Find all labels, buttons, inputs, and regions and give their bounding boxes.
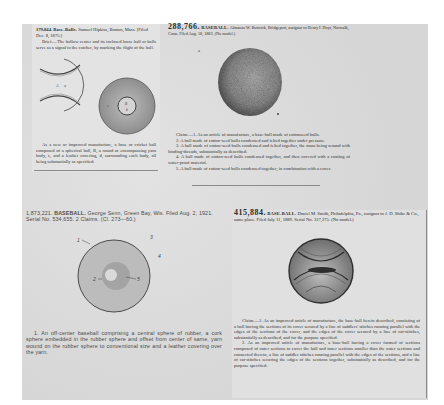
clipping-bottom-rule	[34, 170, 158, 171]
patent-number: 1,873,221.	[26, 210, 53, 216]
figure-label-4: 4	[158, 253, 161, 259]
figure-label-b: b	[126, 108, 128, 112]
patent-header: 288,766. BASEBALL. Almanzo W. Botwick, B…	[168, 24, 356, 36]
patent-title: BASEBALL.	[201, 25, 228, 30]
claim-3: 3. A ball made of cotton-seed hulls cond…	[168, 143, 350, 154]
claim-4: 4. A ball made of cotton-seed hulls cond…	[168, 154, 350, 165]
patent-header: 415,884. BASE-BALL. Daniel M. Smith, Phi…	[234, 210, 420, 222]
patent-claims: Claim.—1. As an article of manufacture, …	[168, 132, 350, 171]
stitched-base-ball-figure	[286, 236, 356, 306]
claim-2: 2. As an improved article of manufacture…	[234, 340, 420, 368]
patent-claim: 1. An off-center baseball comprising a c…	[26, 330, 222, 356]
figure-label-A: A	[55, 83, 59, 88]
patent-claim: As a new or improved manufacture, a base…	[36, 142, 156, 164]
figure-label-a: a	[198, 48, 200, 53]
patent-header: 179,844. Base-Balls. Samuel Hipkiss, Bos…	[36, 27, 156, 38]
patent-clipping-415884: 415,884. BASE-BALL. Daniel M. Smith, Phi…	[232, 210, 427, 398]
base-ball-layered-section-figure: B b c	[94, 76, 156, 136]
patent-clipping-1873221: 1,873,221. BASEBALL. George Senn, Green …	[24, 210, 224, 390]
figure-label-3: 3	[150, 234, 153, 240]
patent-title: BASE-BALL.	[267, 211, 296, 216]
patent-brief: Brief.—The hollow center and its inclose…	[36, 39, 156, 50]
cotton-seed-hull-ball-figure: a	[198, 42, 294, 122]
figure-label-a: a	[64, 83, 66, 88]
claim-1: Claim.—1. As an improved article of manu…	[234, 318, 420, 340]
patent-header: 1,873,221. BASEBALL. George Senn, Green …	[26, 210, 222, 223]
base-ball-cross-section-figure: A a	[34, 57, 94, 113]
patent-collage-sheet: 179,844. Base-Balls. Samuel Hipkiss, Bos…	[22, 24, 428, 400]
off-center-baseball-cross-section-figure: 1 3 4 2 5	[62, 234, 172, 316]
patent-clipping-288766: 288,766. BASEBALL. Almanzo W. Botwick, B…	[164, 20, 396, 182]
patent-number: 179,844.	[36, 27, 52, 32]
figure-label-5: 5	[137, 276, 140, 282]
patent-claims: Claim.—1. As an improved article of manu…	[234, 318, 420, 368]
patent-title: BASEBALL.	[54, 210, 86, 216]
patent-title: Base-Balls.	[53, 27, 77, 32]
claim-5: 5. A ball made of cotton-seed hulls cond…	[168, 166, 350, 172]
figure-label-1: 1	[77, 237, 80, 243]
figure-label-2: 2	[92, 276, 96, 282]
patent-clipping-179844: 179,844. Base-Balls. Samuel Hipkiss, Bos…	[32, 24, 160, 172]
clipping-bottom-rule	[192, 185, 320, 186]
